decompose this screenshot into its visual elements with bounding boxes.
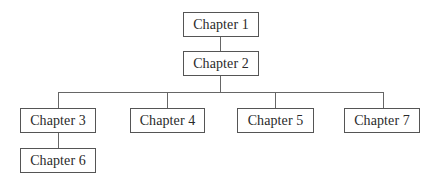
node-chapter-3: Chapter 3 <box>20 108 96 133</box>
connector-ch3-ch6 <box>58 133 59 148</box>
connector-branch-ch4 <box>167 92 168 108</box>
connector-branch-ch5 <box>275 92 276 108</box>
node-chapter-2: Chapter 2 <box>183 51 259 76</box>
node-chapter-7: Chapter 7 <box>344 108 420 133</box>
connector-ch2-branch <box>220 76 221 92</box>
connector-ch1-ch2 <box>220 36 221 51</box>
node-chapter-5: Chapter 5 <box>237 108 314 133</box>
node-chapter-4: Chapter 4 <box>130 108 205 133</box>
connector-branch-horizontal <box>58 92 384 93</box>
chapter-tree-diagram: Chapter 1 Chapter 2 Chapter 3 Chapter 4 … <box>0 0 441 184</box>
connector-branch-ch7 <box>383 92 384 108</box>
connector-branch-ch3 <box>58 92 59 108</box>
node-chapter-6: Chapter 6 <box>20 148 96 173</box>
node-chapter-1: Chapter 1 <box>183 12 259 37</box>
